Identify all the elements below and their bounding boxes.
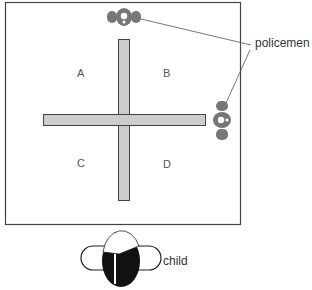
- diagram: A B C D policemen child: [0, 0, 312, 290]
- region-label-a: A: [77, 67, 84, 79]
- region-label-c: C: [77, 157, 85, 169]
- policemen-label: policemen: [255, 36, 310, 50]
- region-label-d: D: [163, 158, 171, 170]
- child-label: child: [163, 254, 188, 268]
- region-label-b: B: [163, 67, 170, 79]
- child-icon: [81, 231, 161, 287]
